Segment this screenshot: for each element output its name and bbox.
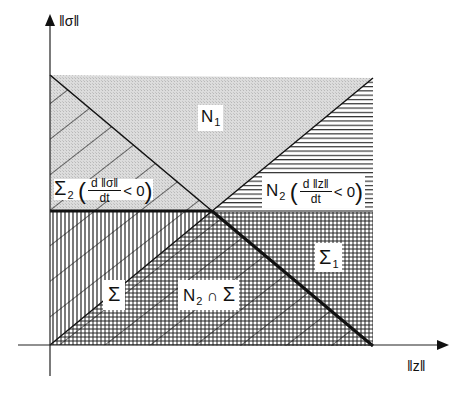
- cap-operator: ∩: [207, 287, 219, 304]
- n2-fraction: d ‖z‖dt: [300, 178, 332, 205]
- n1-symbol: N: [201, 107, 213, 126]
- label-sigma2: Σ2 (d ‖σ‖dt< 0): [52, 175, 155, 206]
- n2cap-sigma-symbol: Σ: [223, 283, 235, 305]
- n1-subscript: 1: [214, 116, 220, 128]
- sigma-symbol: Σ: [108, 283, 120, 305]
- sigma2-relation: < 0: [123, 182, 144, 199]
- label-n1: N1: [198, 105, 223, 131]
- y-axis-arrow-icon: [45, 14, 55, 26]
- n2-relation: < 0: [334, 183, 355, 200]
- n2cap-subscript: 2: [196, 295, 202, 307]
- label-sigma1: Σ1: [315, 243, 342, 272]
- x-axis-arrow-icon: [437, 340, 449, 350]
- label-n2: N2 (d ‖z‖dt< 0): [262, 176, 365, 208]
- sigma1-subscript: 1: [332, 258, 338, 270]
- n2cap-symbol: N: [183, 286, 195, 305]
- x-axis-label: ‖z‖: [407, 359, 426, 373]
- label-n2-cap-sigma: N2 ∩ Σ: [178, 280, 239, 310]
- sigma1-symbol: Σ: [319, 246, 331, 268]
- sigma2-fraction: d ‖σ‖dt: [88, 177, 121, 204]
- y-axis-label: ‖σ‖: [59, 14, 79, 28]
- sigma2-symbol: Σ: [54, 177, 66, 199]
- n2-subscript: 2: [279, 190, 285, 202]
- label-sigma: Σ: [103, 280, 125, 310]
- sigma2-subscript: 2: [67, 189, 73, 201]
- n2-symbol: N: [266, 181, 278, 200]
